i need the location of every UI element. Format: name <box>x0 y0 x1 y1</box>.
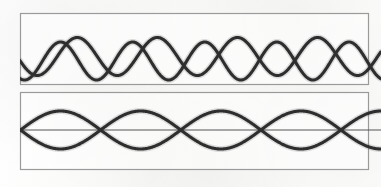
beat-panel-waves <box>20 111 381 149</box>
waveform-panels-svg <box>0 0 381 187</box>
top-panel-group <box>20 14 381 85</box>
beat-panel-frame <box>21 93 369 170</box>
bottom-panel-group <box>20 93 381 170</box>
wave-interference-figure <box>0 0 381 187</box>
